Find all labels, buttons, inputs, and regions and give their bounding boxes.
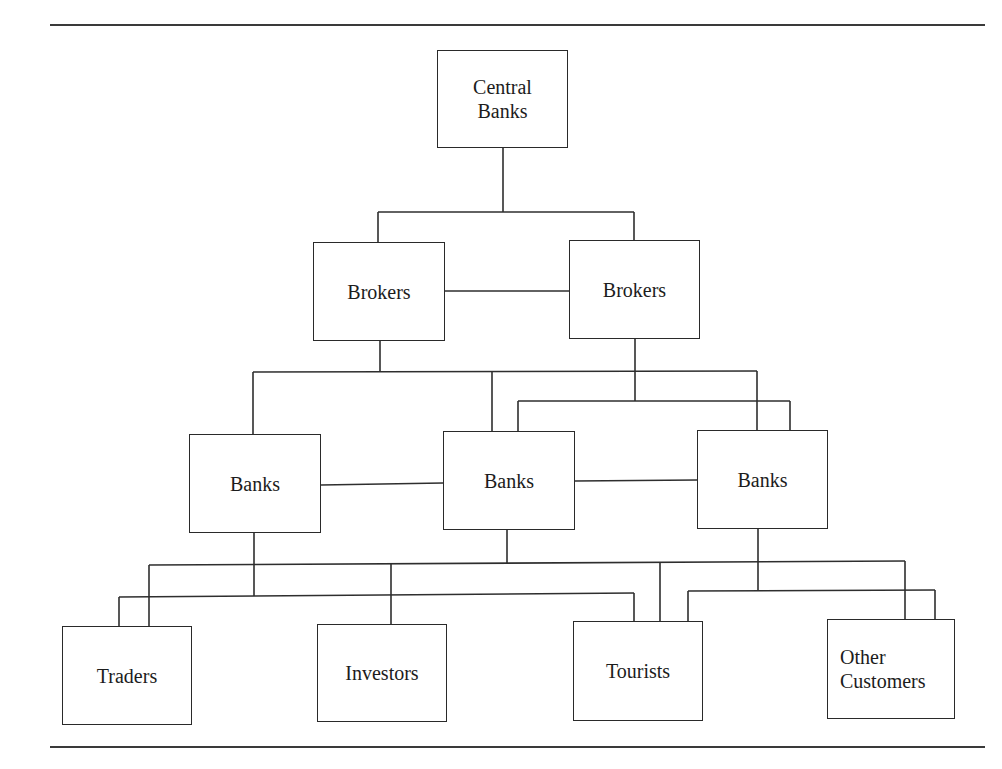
node-label: Traders	[97, 664, 157, 688]
node-other-customers: Other Customers	[827, 619, 955, 719]
node-label: Brokers	[347, 280, 410, 304]
node-tourists: Tourists	[573, 621, 703, 721]
connector-segment	[575, 480, 697, 481]
diagram-canvas: Central Banks Brokers Brokers Banks Bank…	[0, 0, 1002, 769]
node-banks-middle: Banks	[443, 431, 575, 530]
node-label: Other Customers	[840, 645, 926, 693]
node-label: Tourists	[606, 659, 670, 683]
node-brokers-left: Brokers	[313, 242, 445, 341]
top-rule	[50, 24, 985, 26]
connector-segment	[321, 483, 443, 485]
node-brokers-right: Brokers	[569, 240, 700, 339]
node-label: Central Banks	[473, 75, 532, 123]
node-investors: Investors	[317, 624, 447, 722]
node-banks-left: Banks	[189, 434, 321, 533]
node-banks-right: Banks	[697, 430, 828, 529]
connector-segment	[688, 590, 935, 591]
connector-segment	[149, 561, 905, 565]
connector-segment	[119, 593, 634, 597]
node-label: Banks	[738, 468, 788, 492]
node-label: Brokers	[603, 278, 666, 302]
node-label: Banks	[230, 472, 280, 496]
node-central-banks: Central Banks	[437, 50, 568, 148]
connector-segment	[253, 371, 757, 372]
node-label: Banks	[484, 469, 534, 493]
node-label: Investors	[345, 661, 418, 685]
node-traders: Traders	[62, 626, 192, 725]
bottom-rule	[50, 746, 985, 748]
